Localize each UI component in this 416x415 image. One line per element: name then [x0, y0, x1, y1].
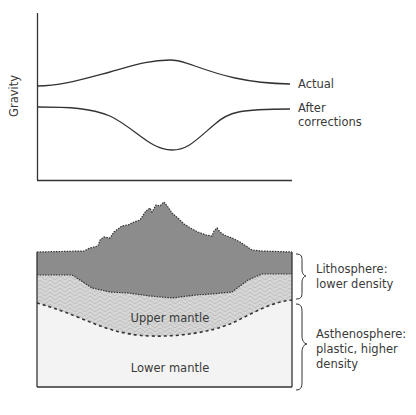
asthenosphere-label-line3: density — [316, 357, 358, 371]
legend-after-corrections-line2: corrections — [298, 115, 362, 129]
lithosphere-label-line1: Lithosphere: — [316, 262, 388, 276]
asthenosphere-label-line2: plastic, higher — [316, 342, 398, 356]
asthenosphere-brace-icon — [296, 304, 307, 390]
lower-mantle-label: Lower mantle — [120, 361, 220, 375]
lithosphere-label-line2: lower density — [316, 277, 393, 291]
asthenosphere-label-line1: Asthenosphere: — [316, 327, 406, 341]
y-axis-label: Gravity — [7, 77, 21, 117]
legend-after-corrections-line1: After — [298, 101, 326, 115]
lithosphere-brace-icon — [296, 254, 306, 299]
upper-mantle-label: Upper mantle — [120, 311, 220, 325]
legend-actual: Actual — [298, 77, 334, 91]
graph-axes — [37, 13, 292, 181]
after-corrections-curve — [37, 107, 290, 150]
actual-gravity-curve — [37, 60, 290, 86]
